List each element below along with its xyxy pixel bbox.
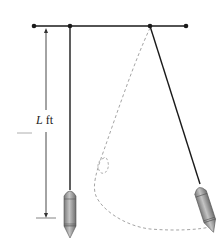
rest-plumb-bob bbox=[64, 191, 76, 238]
support-bar bbox=[32, 24, 189, 29]
length-variable: L bbox=[36, 113, 43, 127]
dashed-trajectory bbox=[94, 28, 214, 230]
pendulum-diagram bbox=[0, 0, 224, 248]
length-label: L ft bbox=[35, 114, 54, 126]
dashed-trajectory-loop bbox=[98, 157, 108, 173]
rest-pendulum bbox=[64, 26, 76, 238]
length-unit: ft bbox=[46, 113, 53, 127]
swing-plumb-bob bbox=[193, 186, 219, 234]
swing-pendulum-string bbox=[150, 26, 200, 184]
bar-end-dot-right bbox=[184, 24, 189, 29]
bar-end-dot-left bbox=[32, 24, 37, 29]
swinging-pendulum bbox=[150, 26, 219, 234]
